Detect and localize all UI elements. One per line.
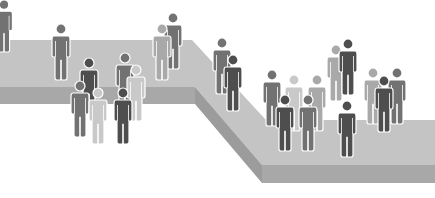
person-head-icon (343, 39, 353, 49)
person-head-icon (392, 68, 402, 78)
person-head-icon (0, 0, 9, 9)
person-head-icon (118, 88, 128, 98)
person-head-icon (228, 55, 238, 65)
person-head-icon (120, 53, 130, 63)
person-head-icon (303, 95, 313, 105)
person-figure (339, 39, 357, 95)
person-head-icon (56, 24, 66, 34)
person-head-icon (168, 13, 178, 23)
person-head-icon (342, 101, 352, 111)
person-head-icon (267, 70, 277, 80)
person-head-icon (217, 38, 227, 48)
illustration-scene (0, 0, 435, 198)
person-head-icon (312, 75, 322, 85)
lower-platform-front-face (262, 165, 435, 183)
person-head-icon (75, 81, 85, 91)
person-head-icon (157, 24, 167, 34)
person-head-icon (93, 88, 103, 98)
stepped-platform-illustration (0, 0, 435, 198)
person-head-icon (368, 68, 378, 78)
person-figure (338, 101, 356, 157)
person-head-icon (379, 76, 389, 86)
person-figure (52, 24, 70, 80)
person-head-icon (84, 58, 94, 68)
person-head-icon (289, 75, 299, 85)
person-head-icon (131, 65, 141, 75)
person-head-icon (280, 95, 290, 105)
